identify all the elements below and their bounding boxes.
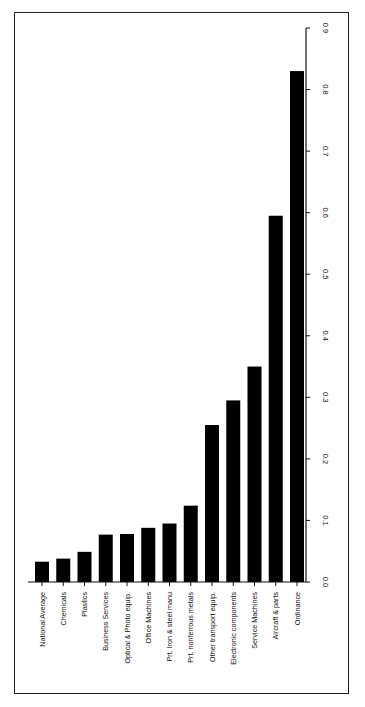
category-label: Optical & Photo equip. xyxy=(123,592,132,664)
value-tick-label: 0.4 xyxy=(321,331,330,341)
bar xyxy=(290,71,304,582)
bar xyxy=(35,562,49,582)
bar xyxy=(248,367,262,582)
category-label: Plastics xyxy=(80,592,89,617)
value-tick-label: 0.3 xyxy=(321,392,330,402)
category-label: Aircraft & parts xyxy=(271,592,280,640)
category-labels: National AverageChemicalsPlasticsBusines… xyxy=(38,592,302,665)
value-tick-label: 0.0 xyxy=(321,577,330,587)
category-label: Business Services xyxy=(101,592,110,651)
category-label: Prt. Iron & steel manu xyxy=(165,592,174,662)
bar xyxy=(163,524,177,582)
bar xyxy=(99,535,113,582)
bar xyxy=(141,528,155,582)
bar xyxy=(184,506,198,582)
value-tick-label: 0.1 xyxy=(321,515,330,525)
category-label: Prt. nonferrous metals xyxy=(186,592,195,663)
bar xyxy=(56,559,70,582)
category-label: Service Machines xyxy=(250,592,259,649)
bar xyxy=(226,400,240,582)
bar xyxy=(269,216,283,582)
category-label: Chemicals xyxy=(59,592,68,626)
value-tick-label: 0.7 xyxy=(321,146,330,156)
value-tick-label: 0.8 xyxy=(321,84,330,94)
category-label: National Average xyxy=(38,592,47,647)
bars-group xyxy=(35,71,304,582)
category-label: Office Machines xyxy=(144,592,153,644)
value-axis: 0.00.10.20.30.40.50.60.70.80.9 xyxy=(28,23,330,587)
bar-chart: 0.00.10.20.30.40.50.60.70.80.9 National … xyxy=(0,0,365,707)
value-tick-label: 0.2 xyxy=(321,454,330,464)
value-tick-label: 0.5 xyxy=(321,269,330,279)
category-label: Ordinance xyxy=(293,592,302,625)
category-label: Other transport equip. xyxy=(208,592,217,662)
value-tick-label: 0.9 xyxy=(321,23,330,33)
category-label: Electronic components xyxy=(229,592,238,665)
bar xyxy=(78,552,92,582)
bar xyxy=(205,425,219,582)
bar xyxy=(120,534,134,582)
value-tick-label: 0.6 xyxy=(321,207,330,217)
